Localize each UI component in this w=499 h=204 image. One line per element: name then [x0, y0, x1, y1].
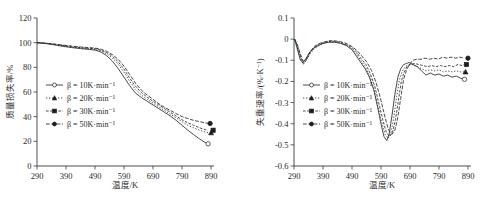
marker-filled-circle: [53, 122, 57, 126]
y-tick-label: 120: [19, 13, 32, 23]
x-tick-label: 790: [176, 171, 189, 181]
y-tick-label: -0.6: [275, 161, 288, 171]
marker-open-circle: [310, 83, 314, 87]
marker-open-circle: [462, 77, 466, 81]
x-tick-label: 490: [346, 171, 359, 181]
marker-filled-square: [53, 109, 57, 113]
x-tick-label: 390: [60, 171, 73, 181]
y-tick-label: 0: [27, 161, 31, 171]
y-tick-label: 0.1: [278, 13, 289, 23]
y-tick-label: 100: [19, 38, 32, 48]
panel-tga: 020406080100120 290390490590690790890 β …: [0, 0, 249, 204]
marker-open-circle: [206, 142, 210, 146]
y-tick-label: 60: [23, 87, 32, 97]
y-tick-label: 0: [284, 34, 288, 44]
series-line-2: [295, 39, 465, 136]
tga-legend: β = 10K·min⁻¹β = 20K·min⁻¹β = 30K·min⁻¹β…: [46, 81, 116, 129]
marker-filled-square: [211, 128, 215, 132]
tga-end-markers: [206, 121, 215, 146]
y-tick-label: 80: [23, 62, 32, 72]
dtg-curves: [295, 39, 465, 140]
dtg-legend: β = 10K·min⁻¹β = 20K·min⁻¹β = 30K·min⁻¹β…: [303, 81, 373, 129]
x-tick-label: 390: [317, 171, 330, 181]
dtg-x-ticks: 290390490590690790890: [288, 166, 475, 181]
x-tick-label: 490: [89, 171, 102, 181]
legend-label-0: β = 10K·min⁻¹: [324, 81, 373, 90]
x-tick-label: 290: [288, 171, 301, 181]
dtg-y-ticks: -0.6-0.5-0.4-0.3-0.2-0.100.1: [275, 13, 294, 171]
legend-label-0: β = 10K·min⁻¹: [67, 81, 116, 90]
legend-label-1: β = 20K·min⁻¹: [324, 94, 373, 103]
y-tick-label: -0.1: [275, 55, 288, 65]
legend-label-3: β = 50K·min⁻¹: [67, 120, 116, 129]
x-tick-label: 290: [31, 171, 44, 181]
marker-open-circle: [53, 83, 57, 87]
y-tick-label: -0.3: [275, 98, 288, 108]
figure-tga-dtg: 020406080100120 290390490590690790890 β …: [0, 0, 499, 204]
x-tick-label: 690: [147, 171, 160, 181]
marker-filled-circle: [208, 121, 212, 125]
legend-label-2: β = 30K·min⁻¹: [67, 107, 116, 116]
dtg-y-axis-title: 失重速率/(%·K⁻¹): [255, 58, 265, 125]
series-line-1: [295, 39, 465, 138]
dtg-plot: -0.6-0.5-0.4-0.3-0.2-0.100.1 29039049059…: [249, 0, 499, 204]
legend-label-1: β = 20K·min⁻¹: [67, 94, 116, 103]
dtg-x-axis-title: 温度/K: [369, 180, 396, 190]
series-line-3: [295, 39, 464, 134]
legend-label-2: β = 30K·min⁻¹: [324, 107, 373, 116]
dtg-axes: [294, 18, 471, 166]
y-tick-label: 40: [23, 112, 32, 122]
y-tick-label: 20: [23, 136, 32, 146]
y-tick-label: -0.2: [275, 76, 288, 86]
tga-x-axis-title: 温度/K: [112, 180, 139, 190]
series-line-1: [37, 43, 208, 133]
tga-curves: [37, 43, 208, 144]
x-tick-label: 890: [462, 171, 475, 181]
marker-filled-square: [464, 62, 468, 66]
tga-x-ticks: 290390490590690790890: [31, 166, 218, 181]
x-tick-label: 790: [433, 171, 446, 181]
panel-dtg: -0.6-0.5-0.4-0.3-0.2-0.100.1 29039049059…: [249, 0, 499, 204]
y-tick-label: -0.4: [275, 119, 289, 129]
legend-label-3: β = 50K·min⁻¹: [324, 120, 373, 129]
tga-axes: [37, 18, 214, 166]
y-tick-label: -0.5: [275, 140, 288, 150]
marker-filled-circle: [466, 56, 470, 60]
x-tick-label: 890: [205, 171, 218, 181]
marker-filled-square: [310, 109, 314, 113]
tga-y-axis-title: 质量损失率/%: [5, 65, 15, 119]
series-line-0: [37, 43, 208, 144]
tga-plot: 020406080100120 290390490590690790890 β …: [0, 0, 249, 204]
dtg-end-markers: [462, 56, 470, 82]
marker-filled-circle: [310, 122, 314, 126]
tga-y-ticks: 020406080100120: [19, 13, 37, 171]
x-tick-label: 690: [404, 171, 417, 181]
series-line-0: [295, 39, 465, 140]
